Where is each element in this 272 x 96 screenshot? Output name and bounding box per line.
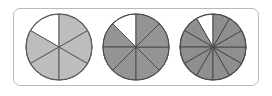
circle-eleven-twelfths-svg bbox=[178, 12, 248, 82]
circle-eleven-twelfths bbox=[178, 12, 248, 82]
circle-five-sixths-svg bbox=[24, 12, 94, 82]
circle-seven-eighths-svg bbox=[101, 12, 171, 82]
circle-seven-eighths bbox=[101, 12, 171, 82]
figure-root bbox=[0, 0, 272, 96]
fraction-circles-row bbox=[14, 9, 258, 85]
circle-five-sixths bbox=[24, 12, 94, 82]
figure-frame bbox=[13, 8, 259, 86]
